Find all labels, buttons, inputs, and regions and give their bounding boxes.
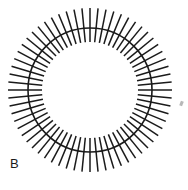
radial-spoke <box>10 99 43 106</box>
radial-spoke <box>14 59 45 72</box>
radial-spoke <box>136 66 169 76</box>
radial-spoke <box>59 14 72 45</box>
radial-spoke <box>137 99 170 106</box>
radial-spoke <box>74 10 81 43</box>
radial-spoke <box>82 138 85 172</box>
radial-spoke <box>136 104 169 114</box>
radial-spoke <box>134 59 165 72</box>
radial-spoke <box>95 138 98 172</box>
radial-spoke <box>66 136 76 169</box>
radial-spoke <box>134 108 165 121</box>
radial-spoke <box>12 66 45 76</box>
radial-spoke <box>8 82 42 85</box>
radial-spoke <box>138 82 172 85</box>
radial-spoke <box>10 74 43 81</box>
radial-spoke <box>59 134 72 165</box>
radial-spoke <box>99 10 106 43</box>
radial-spoke <box>104 136 114 169</box>
radial-spoke <box>138 95 172 98</box>
panel-label: B <box>10 157 19 170</box>
radial-spoke <box>8 95 42 98</box>
radial-spoke <box>82 8 85 42</box>
radial-spoke <box>108 134 121 165</box>
radial-spoke <box>14 108 45 121</box>
radial-spoke <box>104 12 114 45</box>
radial-spoke <box>137 74 170 81</box>
radial-spoke <box>108 14 121 45</box>
spokes-group <box>8 8 172 172</box>
figure-panel: B <box>0 0 188 190</box>
radial-spoke <box>12 104 45 114</box>
radial-spoke <box>95 8 98 42</box>
radial-sunburst-diagram <box>0 0 188 190</box>
radial-spoke <box>66 12 76 45</box>
radial-spoke <box>99 137 106 170</box>
ring-circle <box>28 28 152 152</box>
radial-spoke <box>74 137 81 170</box>
